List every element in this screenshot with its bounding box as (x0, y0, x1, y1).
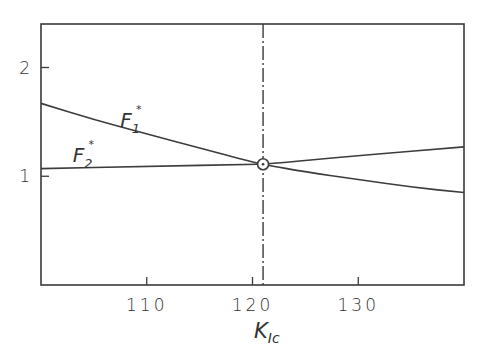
plot-border (41, 24, 464, 285)
series-label-f2: F2* (73, 138, 95, 171)
series-label-f1-main: F (120, 108, 132, 132)
intersection-marker-group (258, 159, 269, 170)
y-tick-label: 2 (19, 58, 33, 78)
x-tick-label: 110 (126, 295, 167, 315)
series-label-f2-main: F (73, 143, 85, 167)
x-axis-label-sub: Ic (268, 330, 280, 346)
axis-ticks (41, 68, 358, 286)
y-tick-label: 1 (19, 166, 33, 186)
x-axis-label: KIc (254, 319, 280, 346)
series-group (41, 103, 464, 192)
x-tick-label: 120 (232, 295, 273, 315)
series-line-f1 (41, 103, 464, 192)
series-label-f2-sub: 2 (84, 156, 92, 171)
series-label-f1-sub: 1 (132, 121, 140, 136)
series-label-f2-sup: * (89, 138, 95, 151)
x-tick-label: 130 (338, 295, 379, 315)
series-line-f2 (41, 147, 464, 169)
intersection-marker-dot (262, 163, 265, 166)
series-label-f1-sup: * (136, 103, 142, 116)
plot-frame (41, 24, 464, 285)
series-labels: F1* F2* (73, 103, 142, 171)
axis-tick-labels: 11012013012 (19, 58, 379, 316)
series-label-f1: F1* (120, 103, 142, 136)
chart: 11012013012 F1* F2* KIc (0, 0, 484, 359)
